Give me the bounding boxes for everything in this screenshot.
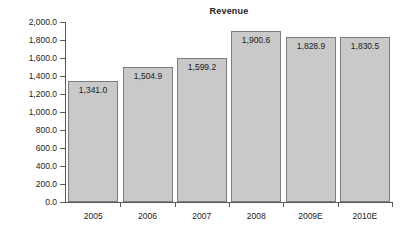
y-axis-tick — [60, 76, 65, 77]
x-axis-label: 2008 — [229, 211, 283, 221]
y-axis-label: 1,800.0 — [0, 35, 57, 45]
revenue-bar-chart: Revenue 0.0200.0400.0600.0800.01,000.01,… — [0, 0, 411, 244]
y-axis-label: 200.0 — [0, 179, 57, 189]
x-axis-tick — [120, 203, 121, 207]
y-axis-tick — [60, 22, 65, 23]
x-axis-tick — [283, 203, 284, 207]
y-axis-label: 1,200.0 — [0, 89, 57, 99]
bar — [340, 37, 390, 202]
x-axis-label: 2007 — [175, 211, 229, 221]
bar — [177, 58, 227, 202]
y-axis-tick — [60, 202, 65, 203]
y-axis-tick — [60, 130, 65, 131]
y-axis-tick — [60, 40, 65, 41]
y-axis-tick — [60, 184, 65, 185]
x-axis-tick — [229, 203, 230, 207]
y-axis-label: 400.0 — [0, 161, 57, 171]
y-axis-label: 600.0 — [0, 143, 57, 153]
bar-value-label: 1,504.9 — [123, 71, 173, 81]
y-axis-tick — [60, 94, 65, 95]
bar — [68, 81, 118, 202]
bar-value-label: 1,830.5 — [340, 41, 390, 51]
y-axis-label: 800.0 — [0, 125, 57, 135]
bar-value-label: 1,900.6 — [231, 35, 281, 45]
bar — [231, 31, 281, 202]
y-axis-line — [65, 22, 66, 203]
x-axis-tick — [175, 203, 176, 207]
y-axis-tick — [60, 166, 65, 167]
bar — [123, 67, 173, 202]
y-axis-label: 2,000.0 — [0, 17, 57, 27]
y-axis-tick — [60, 58, 65, 59]
x-axis-tick — [392, 203, 393, 207]
x-axis-label: 2006 — [120, 211, 174, 221]
x-axis-tick — [338, 203, 339, 207]
y-axis-label: 0.0 — [0, 197, 57, 207]
bar-value-label: 1,828.9 — [286, 41, 336, 51]
y-axis-tick — [60, 112, 65, 113]
y-axis-label: 1,400.0 — [0, 71, 57, 81]
chart-title: Revenue — [66, 6, 392, 16]
x-axis-label: 2009E — [283, 211, 337, 221]
x-axis-label: 2010E — [338, 211, 392, 221]
bar — [286, 37, 336, 202]
bar-value-label: 1,599.2 — [177, 62, 227, 72]
y-axis-label: 1,000.0 — [0, 107, 57, 117]
y-axis-tick — [60, 148, 65, 149]
bar-value-label: 1,341.0 — [68, 85, 118, 95]
x-axis-label: 2005 — [66, 211, 120, 221]
y-axis-label: 1,600.0 — [0, 53, 57, 63]
